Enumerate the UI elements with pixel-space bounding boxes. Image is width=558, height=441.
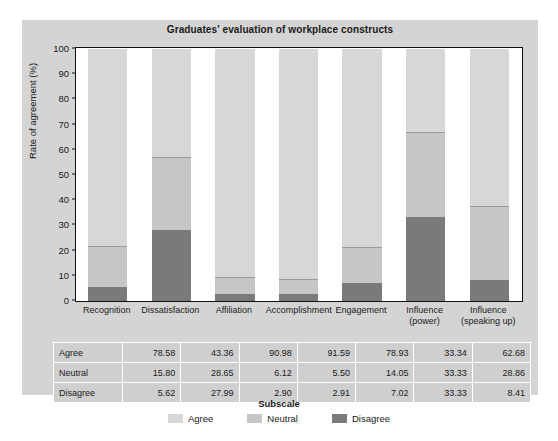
bar-stack bbox=[342, 48, 381, 301]
x-tick-label-line: Dissatisfaction bbox=[139, 305, 203, 316]
chart-title: Graduates' evaluation of workplace const… bbox=[22, 24, 538, 35]
legend-item: Disagree bbox=[332, 413, 390, 424]
x-tick-label: Engagement bbox=[329, 305, 393, 316]
x-tick-label-line: (power) bbox=[393, 316, 457, 327]
chart-panel: Graduates' evaluation of workplace const… bbox=[22, 20, 538, 395]
y-tick-label: 50 bbox=[35, 169, 69, 180]
y-tick-label: 30 bbox=[35, 219, 69, 230]
bar-segment-neutral bbox=[342, 248, 381, 283]
segment-divider bbox=[470, 206, 509, 207]
table-cell: 6.12 bbox=[239, 363, 297, 383]
legend-items: AgreeNeutralDisagree bbox=[0, 413, 558, 424]
data-table: Agree78.5843.3690.9891.5978.9333.3462.68… bbox=[53, 342, 531, 403]
bar-stack bbox=[406, 48, 445, 301]
table-row: Agree78.5843.3690.9891.5978.9333.3462.68 bbox=[54, 343, 531, 363]
bar-segment-disagree bbox=[279, 294, 318, 301]
legend-item: Neutral bbox=[247, 413, 298, 424]
bar-stack bbox=[88, 48, 127, 301]
segment-divider bbox=[152, 157, 191, 158]
bar-segment-agree bbox=[342, 49, 381, 248]
legend-swatch-icon bbox=[247, 414, 262, 423]
table-cell: 91.59 bbox=[297, 343, 355, 363]
y-tick-label: 100 bbox=[35, 43, 69, 54]
bar-segment-neutral bbox=[470, 207, 509, 280]
segment-divider bbox=[406, 132, 445, 133]
x-tick-label: Recognition bbox=[75, 305, 139, 316]
bar-segment-neutral bbox=[279, 280, 318, 294]
x-tick-label-line: (speaking up) bbox=[456, 316, 520, 327]
table-cell: 28.86 bbox=[472, 363, 530, 383]
table-cell: 43.36 bbox=[181, 343, 239, 363]
table-cell: 5.50 bbox=[297, 363, 355, 383]
segment-divider bbox=[279, 279, 318, 280]
x-tick-label: Influence(power) bbox=[393, 305, 457, 326]
table-row-header: Agree bbox=[54, 343, 123, 363]
segment-divider bbox=[215, 277, 254, 278]
x-axis-labels: RecognitionDissatisfactionAffiliationAcc… bbox=[75, 305, 523, 335]
y-tick-label: 0 bbox=[35, 295, 69, 306]
bar-series-group bbox=[76, 48, 522, 301]
legend-title: Subscale bbox=[0, 398, 558, 409]
bar-segment-disagree bbox=[88, 287, 127, 301]
bar-segment-neutral bbox=[406, 133, 445, 217]
bar-segment-agree bbox=[152, 49, 191, 158]
bar-segment-neutral bbox=[88, 247, 127, 287]
table-row: Neutral15.8028.656.125.5014.0533.3328.86 bbox=[54, 363, 531, 383]
table-cell: 33.34 bbox=[414, 343, 472, 363]
bar-segment-agree bbox=[470, 49, 509, 207]
bar-segment-disagree bbox=[342, 283, 381, 301]
y-tick-label: 10 bbox=[35, 269, 69, 280]
x-tick-label-line: Influence bbox=[456, 305, 520, 316]
y-tick-label: 70 bbox=[35, 118, 69, 129]
bar-segment-neutral bbox=[152, 158, 191, 230]
y-tick-label: 90 bbox=[35, 68, 69, 79]
table-cell: 15.80 bbox=[123, 363, 181, 383]
x-tick-label-line: Affiliation bbox=[202, 305, 266, 316]
y-tick-label: 60 bbox=[35, 143, 69, 154]
x-tick-label-line: Engagement bbox=[329, 305, 393, 316]
x-tick-label-line: Recognition bbox=[75, 305, 139, 316]
table-cell: 14.05 bbox=[356, 363, 414, 383]
legend-label: Agree bbox=[188, 413, 213, 424]
plot-area bbox=[75, 47, 523, 302]
legend-swatch-icon bbox=[332, 414, 347, 423]
x-tick-label-line: Influence bbox=[393, 305, 457, 316]
table-cell: 33.33 bbox=[414, 363, 472, 383]
table-cell: 78.93 bbox=[356, 343, 414, 363]
bar-segment-disagree bbox=[470, 280, 509, 301]
bar-stack bbox=[215, 48, 254, 301]
y-tick-label: 80 bbox=[35, 93, 69, 104]
bar-segment-agree bbox=[88, 49, 127, 247]
x-tick-label-line: Accomplishment bbox=[266, 305, 330, 316]
y-axis-labels: Rate of agreement (%) 100908070605040302… bbox=[29, 47, 69, 302]
legend-label: Neutral bbox=[267, 413, 298, 424]
legend-item: Agree bbox=[168, 413, 213, 424]
chart-figure: Graduates' evaluation of workplace const… bbox=[0, 0, 558, 441]
table-row-header: Neutral bbox=[54, 363, 123, 383]
table-cell: 28.65 bbox=[181, 363, 239, 383]
bar-segment-disagree bbox=[152, 230, 191, 301]
y-tick-label: 40 bbox=[35, 194, 69, 205]
bar-segment-agree bbox=[406, 49, 445, 133]
table-cell: 78.58 bbox=[123, 343, 181, 363]
segment-divider bbox=[342, 247, 381, 248]
bar-segment-disagree bbox=[406, 217, 445, 301]
bar-stack bbox=[470, 48, 509, 301]
bar-stack bbox=[152, 48, 191, 301]
bar-segment-agree bbox=[215, 49, 254, 278]
x-tick-label: Influence(speaking up) bbox=[456, 305, 520, 326]
x-tick-label: Accomplishment bbox=[266, 305, 330, 316]
segment-divider bbox=[88, 246, 127, 247]
bar-segment-neutral bbox=[215, 278, 254, 293]
bar-segment-disagree bbox=[215, 294, 254, 301]
table-cell: 62.68 bbox=[472, 343, 530, 363]
bar-segment-agree bbox=[279, 49, 318, 280]
table-cell: 90.98 bbox=[239, 343, 297, 363]
bar-stack bbox=[279, 48, 318, 301]
x-tick-label: Affiliation bbox=[202, 305, 266, 316]
legend-swatch-icon bbox=[168, 414, 183, 423]
legend: Subscale AgreeNeutralDisagree bbox=[0, 398, 558, 424]
y-tick-label: 20 bbox=[35, 244, 69, 255]
x-tick-label: Dissatisfaction bbox=[139, 305, 203, 316]
legend-label: Disagree bbox=[352, 413, 390, 424]
